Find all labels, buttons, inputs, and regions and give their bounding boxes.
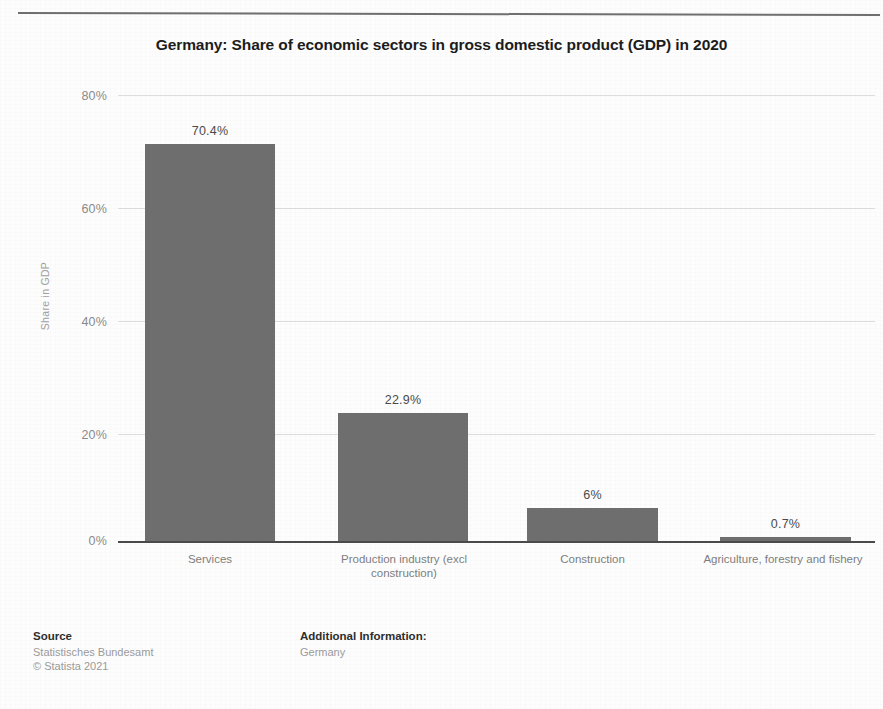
- footer-info-heading: Additional Information:: [300, 630, 426, 642]
- y-tick-label-40: 40%: [55, 315, 107, 329]
- bar-production-industry[interactable]: [338, 413, 468, 542]
- bar-value-services: 70.4%: [145, 124, 275, 138]
- bar-value-agriculture: 0.7%: [720, 517, 851, 531]
- top-divider-rule: [18, 12, 880, 16]
- x-tick-label-services: Services: [125, 552, 295, 566]
- footer-source-line-2: © Statista 2021: [33, 659, 153, 673]
- footer-source-line-1: Statistisches Bundesamt: [33, 645, 153, 659]
- bar-construction[interactable]: [527, 508, 658, 542]
- y-tick-label-80: 80%: [55, 89, 107, 103]
- y-tick-label-20: 20%: [55, 428, 107, 442]
- bar-group-production-industry[interactable]: 22.9%: [338, 90, 468, 542]
- footer-source-heading: Source: [33, 630, 153, 642]
- bar-services[interactable]: [145, 144, 275, 542]
- chart-page: Germany: Share of economic sectors in gr…: [0, 0, 883, 709]
- y-tick-label-60: 60%: [55, 202, 107, 216]
- y-tick-label-0: 0%: [55, 534, 107, 548]
- footer-info-block: Additional Information: Germany: [300, 630, 426, 659]
- x-tick-label-production-industry: Production industry (excl construction): [310, 552, 498, 580]
- plot-area: 70.4% 22.9% 6% 0.7%: [118, 90, 875, 542]
- y-axis-title: Share in GDP: [39, 246, 51, 346]
- footer-info-line-1: Germany: [300, 645, 426, 659]
- bar-group-services[interactable]: 70.4%: [145, 90, 275, 542]
- bar-group-agriculture[interactable]: 0.7%: [720, 90, 851, 542]
- x-tick-label-construction: Construction: [505, 552, 680, 566]
- x-axis-line: [118, 541, 875, 543]
- bar-value-construction: 6%: [527, 488, 658, 502]
- x-tick-label-agriculture: Agriculture, forestry and fishery: [693, 552, 873, 566]
- bar-value-production-industry: 22.9%: [338, 393, 468, 407]
- page-title: Germany: Share of economic sectors in gr…: [0, 36, 883, 54]
- bar-group-construction[interactable]: 6%: [527, 90, 658, 542]
- footer-source-block: Source Statistisches Bundesamt © Statist…: [33, 630, 153, 673]
